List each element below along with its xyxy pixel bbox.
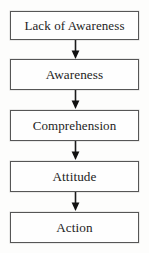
flow-node-label: Awareness (46, 68, 104, 81)
arrow-down-icon (70, 90, 81, 109)
flow-node-comprehension: Comprehension (10, 110, 139, 141)
flow-node-label: Comprehension (33, 119, 117, 132)
flowchart-diagram: Lack of Awareness Awareness Comprehensio… (0, 0, 149, 253)
flow-node-awareness: Awareness (10, 59, 139, 90)
flow-node-lack-of-awareness: Lack of Awareness (10, 11, 139, 40)
flow-node-attitude: Attitude (10, 161, 139, 192)
flow-node-label: Action (56, 221, 93, 234)
arrow-down-icon (70, 141, 81, 160)
arrow-down-icon (70, 40, 81, 59)
arrow-down-icon (70, 192, 81, 211)
flow-node-label: Lack of Awareness (24, 19, 124, 32)
flow-node-action: Action (10, 212, 139, 243)
flow-node-label: Attitude (52, 170, 96, 183)
